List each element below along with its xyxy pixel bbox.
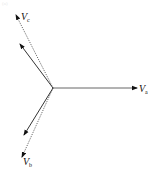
phasor-vb-dotted-line [22, 88, 53, 157]
label-vb: V b [23, 156, 32, 168]
phasor-lower-solid-line [24, 88, 53, 135]
label-va: V a [139, 83, 148, 95]
label-vc: V c [21, 11, 30, 23]
phasor-upper-solid-line [20, 44, 53, 88]
label-vc-subscript: c [27, 17, 30, 23]
label-vb-subscript: b [29, 162, 32, 168]
panel-label: (a) [2, 1, 8, 6]
label-va-subscript: a [145, 89, 148, 95]
phasor-diagram: (a) V a V c V b [0, 0, 156, 183]
phasor-vc-dotted-line [16, 15, 53, 88]
